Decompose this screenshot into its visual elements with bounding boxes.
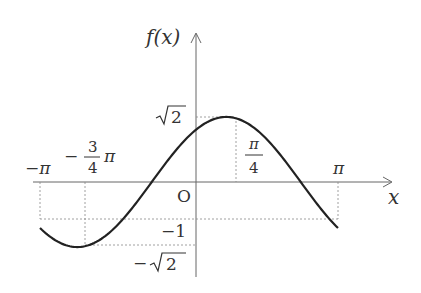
tick-label-quarter-pi: π 4 [245, 135, 263, 177]
radicand: 2 [171, 107, 182, 127]
tick-label-neg-three-quarter-pi: − 3 4 π [64, 138, 116, 177]
x-axis-label: x [388, 185, 399, 209]
tick-label-neg-sqrt2: − 2 [133, 253, 186, 274]
fraction-denominator: 4 [88, 159, 98, 177]
tick-label-pi: π [332, 158, 345, 178]
y-axis-label: f(x) [144, 25, 180, 49]
tick-label-neg-pi: −π [25, 158, 51, 178]
fraction-numerator: 3 [88, 138, 98, 156]
tick-label-sqrt2: 2 [156, 106, 186, 127]
tick-label-neg-one: −1 [161, 221, 186, 241]
fraction-denominator: 4 [249, 159, 259, 177]
origin-label: O [177, 186, 191, 206]
pi-symbol: π [103, 146, 116, 166]
function-graph: f(x) x O −π − 3 4 π π 4 π 2 −1 − 2 [0, 0, 421, 293]
fraction-numerator: π [248, 135, 260, 153]
neg-one-text: −1 [161, 221, 186, 241]
radicand: 2 [166, 254, 177, 274]
minus-sign: − [64, 146, 78, 166]
minus-sign: − [133, 253, 147, 273]
